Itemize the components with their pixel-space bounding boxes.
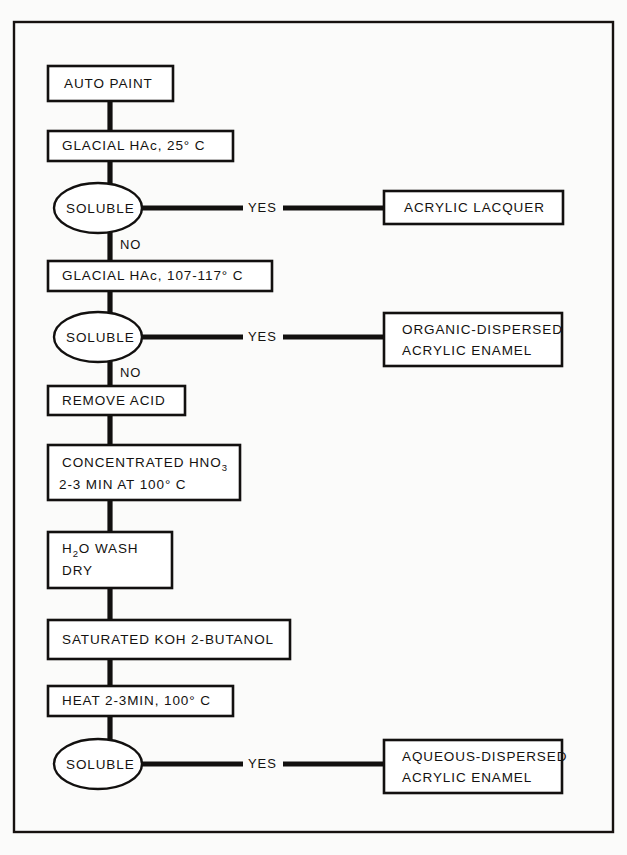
node-saturated-koh-2-butanol[interactable]: SATURATED KOH 2-BUTANOL <box>48 620 290 659</box>
edge-label-yes-2: YES <box>248 329 277 344</box>
node-decision-soluble-2-label: SOLUBLE <box>66 330 135 345</box>
node-decision-soluble-3-label: SOLUBLE <box>66 757 135 772</box>
edge-label-yes-1: YES <box>248 200 277 215</box>
node-concentrated-hno3[interactable]: CONCENTRATED HNO3 2-3 MIN AT 100° C <box>48 445 240 500</box>
node-heat-label: HEAT 2-3MIN, 100° C <box>62 693 211 708</box>
edge-label-yes-3: YES <box>248 756 277 771</box>
node-acrylic-lacquer[interactable]: ACRYLIC LACQUER <box>384 191 563 224</box>
node-concentrated-hno3-line2: 2-3 MIN AT 100° C <box>59 477 187 492</box>
h2o-text-h: H <box>62 541 73 556</box>
node-decision-soluble-2[interactable]: SOLUBLE <box>54 312 142 362</box>
node-glacial-hac-25[interactable]: GLACIAL HAc, 25° C <box>48 131 233 161</box>
node-auto-paint-label: AUTO PAINT <box>64 76 153 91</box>
flowchart-canvas: AUTO PAINT GLACIAL HAc, 25° C SOLUBLE YE… <box>0 0 627 855</box>
node-decision-soluble-1[interactable]: SOLUBLE <box>54 183 142 233</box>
node-aqueous-dispersed-line2: ACRYLIC ENAMEL <box>402 770 532 785</box>
node-glacial-hac-107-label: GLACIAL HAc, 107-117° C <box>62 268 243 283</box>
node-decision-soluble-1-label: SOLUBLE <box>66 201 135 216</box>
hno3-text: CONCENTRATED HNO <box>62 455 222 470</box>
node-h2o-wash-line2: DRY <box>62 563 93 578</box>
node-glacial-hac-107[interactable]: GLACIAL HAc, 107-117° C <box>48 261 272 291</box>
edge-label-no-1: NO <box>120 237 141 252</box>
h2o-text-rest: O WASH <box>79 541 139 556</box>
node-concentrated-hno3-box <box>48 445 240 500</box>
node-remove-acid-label: REMOVE ACID <box>62 393 166 408</box>
flowchart-svg: AUTO PAINT GLACIAL HAc, 25° C SOLUBLE YE… <box>0 0 627 855</box>
node-auto-paint[interactable]: AUTO PAINT <box>48 66 173 101</box>
node-saturated-koh-label: SATURATED KOH 2-BUTANOL <box>62 632 274 647</box>
node-glacial-hac-25-label: GLACIAL HAc, 25° C <box>62 138 205 153</box>
node-organic-dispersed-acrylic-enamel[interactable]: ORGANIC-DISPERSED ACRYLIC ENAMEL <box>384 313 563 366</box>
hno3-subscript: 3 <box>222 462 228 473</box>
node-heat[interactable]: HEAT 2-3MIN, 100° C <box>48 686 233 716</box>
node-acrylic-lacquer-label: ACRYLIC LACQUER <box>404 200 545 215</box>
node-organic-dispersed-line2: ACRYLIC ENAMEL <box>402 343 532 358</box>
edge-label-no-2: NO <box>120 365 141 380</box>
node-decision-soluble-3[interactable]: SOLUBLE <box>54 739 142 789</box>
node-remove-acid[interactable]: REMOVE ACID <box>48 386 185 415</box>
node-aqueous-dispersed-line1: AQUEOUS-DISPERSED <box>402 749 567 764</box>
node-organic-dispersed-line1: ORGANIC-DISPERSED <box>402 322 563 337</box>
node-aqueous-dispersed-acrylic-enamel[interactable]: AQUEOUS-DISPERSED ACRYLIC ENAMEL <box>384 740 567 793</box>
node-h2o-wash-dry[interactable]: H2O WASH DRY <box>48 532 172 588</box>
